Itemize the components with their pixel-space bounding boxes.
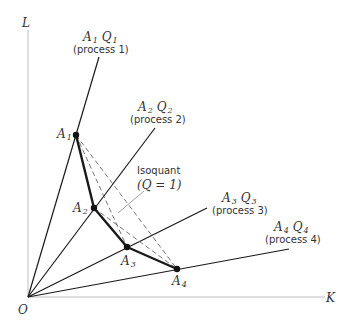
origin-label: O [18,303,28,317]
process-2-label: A2Q2 (process 2) [130,100,186,125]
process-1-label: A1Q1 (process 1) [73,30,129,55]
isoquant-diagram: L K O A1 A2 A3 A4 A1Q1 (process 1) A2Q2 … [0,0,352,324]
svg-text:(process 3): (process 3) [212,205,268,216]
svg-text:(process 1): (process 1) [73,44,129,55]
isoquant-pointer [118,191,144,213]
point-a3 [124,244,130,250]
point-a4-label: A4 [171,274,187,289]
point-a2-label: A2 [72,201,88,216]
x-axis-label: K [325,291,336,305]
svg-text:(Q = 1): (Q = 1) [137,178,182,192]
svg-text:A3Q3: A3Q3 [221,191,257,206]
process-2-ray [28,128,155,297]
process-1-ray [28,57,99,297]
isoquant-label: Isoquant (Q = 1) [137,165,182,192]
point-a1-label: A1 [56,127,72,142]
point-a3-label: A3 [120,254,136,269]
y-axis-label: L [21,16,30,30]
dashed-a1-a3 [76,135,127,247]
svg-text:A4Q4: A4Q4 [273,220,309,235]
process-3-label: A3Q3 (process 3) [212,191,268,216]
point-a4 [174,266,180,272]
svg-text:Isoquant: Isoquant [137,165,180,176]
process-4-ray [28,249,289,297]
process-4-label: A4Q4 (process 4) [265,220,321,245]
svg-text:(process 2): (process 2) [130,114,186,125]
svg-text:(process 4): (process 4) [265,234,321,245]
svg-text:A1Q1: A1Q1 [82,30,118,45]
point-a1 [73,132,79,138]
point-a2 [91,205,97,211]
svg-text:A2Q2: A2Q2 [137,100,173,115]
